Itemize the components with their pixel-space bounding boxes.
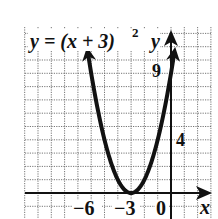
y-axis-label: y — [149, 30, 160, 53]
x-axis-label: x — [199, 196, 210, 218]
equation-label: y = (x + 3) — [28, 30, 115, 53]
y-tick-9: 9 — [152, 61, 161, 81]
y-tick-4: 4 — [176, 130, 185, 150]
equation-exponent: 2 — [132, 25, 139, 40]
x-tick-minus-6: −6 — [73, 197, 94, 219]
grid — [25, 27, 212, 219]
x-tick-minus-3: −3 — [114, 197, 135, 219]
x-tick-0: 0 — [156, 197, 166, 219]
parabola-graph: y = (x + 3) 2 y 9 4 −6 −3 0 x — [0, 0, 218, 219]
